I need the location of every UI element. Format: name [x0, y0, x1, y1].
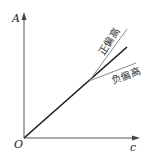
diagram: A c O 正偏高 负偏高 — [0, 0, 151, 158]
y-axis-arrow-icon — [22, 12, 27, 20]
x-axis-label: c — [130, 141, 136, 154]
ideal-line — [24, 47, 127, 138]
origin-label: O — [14, 138, 23, 151]
diagram-canvas: A c O 正偏高 负偏高 — [0, 0, 151, 158]
x-axis-arrow-icon — [132, 136, 140, 141]
y-axis-label: A — [11, 12, 20, 25]
negative-deviation-label: 负偏高 — [110, 64, 142, 86]
